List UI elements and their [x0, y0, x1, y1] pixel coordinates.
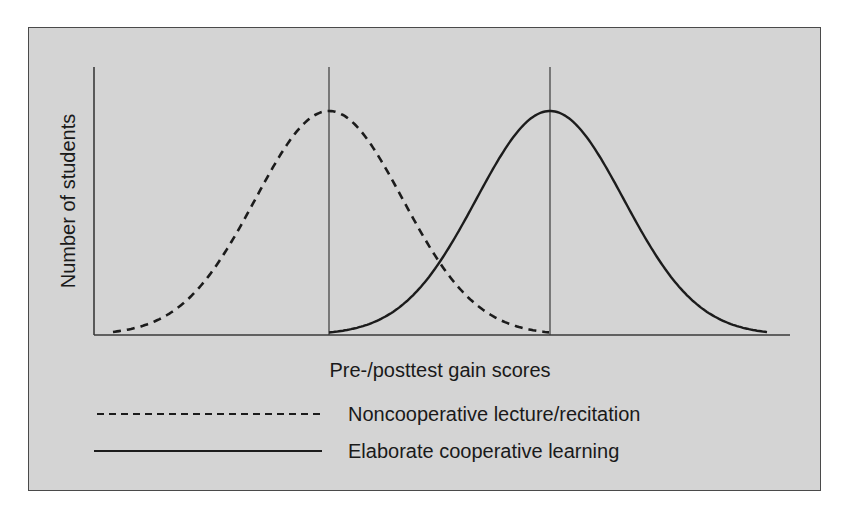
chart: Number of students Pre-/posttest gain sc… — [0, 0, 846, 517]
curve-elaborate-cooperative — [329, 111, 767, 333]
legend-label-cooperative: Elaborate cooperative learning — [348, 440, 619, 462]
x-axis-label: Pre-/posttest gain scores — [329, 359, 550, 381]
legend: Noncooperative lecture/recitation Elabor… — [94, 403, 640, 462]
y-axis-label: Number of students — [57, 114, 79, 289]
curve-noncooperative-lecture — [113, 111, 549, 332]
legend-label-noncooperative: Noncooperative lecture/recitation — [348, 403, 640, 425]
